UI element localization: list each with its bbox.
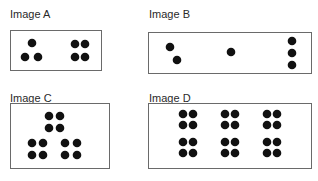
dot-icon <box>45 124 54 133</box>
dot-icon <box>39 139 48 148</box>
dot-icon <box>221 138 230 147</box>
dot-icon <box>34 53 43 62</box>
dot-icon <box>166 43 175 52</box>
dot-icon <box>81 53 90 62</box>
dot-icon <box>179 121 188 130</box>
dot-icon <box>231 149 240 158</box>
dot-icon <box>288 49 297 58</box>
dot-icon <box>45 112 54 121</box>
dot-icon <box>73 151 82 160</box>
dot-icon <box>71 53 80 62</box>
dot-icon <box>81 40 90 49</box>
dot-icon <box>189 138 198 147</box>
dot-icon <box>189 110 198 119</box>
dot-icon <box>173 56 182 65</box>
dot-icon <box>231 121 240 130</box>
dot-icon <box>231 110 240 119</box>
dot-icon <box>221 110 230 119</box>
dot-icon <box>179 110 188 119</box>
panel-c-dots <box>28 112 82 160</box>
dot-icon <box>61 151 70 160</box>
dot-icon <box>71 40 80 49</box>
dot-icon <box>56 124 65 133</box>
dot-icon <box>231 138 240 147</box>
dot-icon <box>28 151 37 160</box>
dot-icon <box>39 151 48 160</box>
dot-icon <box>179 149 188 158</box>
dot-icon <box>189 121 198 130</box>
dot-icon <box>263 138 272 147</box>
dot-icon <box>179 138 188 147</box>
dot-icon <box>189 149 198 158</box>
dot-icon <box>21 53 30 62</box>
dot-icon <box>263 110 272 119</box>
panel-d-dots <box>179 110 282 158</box>
dot-icon <box>288 37 297 46</box>
dot-icon <box>273 110 282 119</box>
dot-icon <box>61 139 70 148</box>
dot-icon <box>263 149 272 158</box>
dot-icon <box>73 139 82 148</box>
dot-icon <box>56 112 65 121</box>
dot-icon <box>227 48 236 57</box>
panel-a-dots <box>21 39 90 62</box>
dot-icon <box>273 149 282 158</box>
panel-b-dots <box>166 37 297 70</box>
dot-icon <box>28 39 37 48</box>
dot-icon <box>28 139 37 148</box>
dot-icon <box>273 138 282 147</box>
dots-layer <box>0 0 318 181</box>
dot-icon <box>273 121 282 130</box>
dot-icon <box>263 121 272 130</box>
dot-icon <box>221 149 230 158</box>
dot-icon <box>221 121 230 130</box>
dot-icon <box>288 61 297 70</box>
